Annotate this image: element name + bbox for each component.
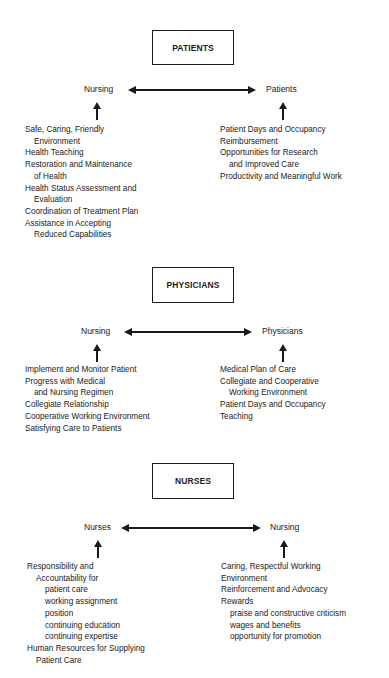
patients-left-list: Safe, Caring, Friendly Environment Healt… <box>25 124 138 241</box>
list-item: and Improved Care <box>220 159 342 171</box>
patients-title-box: PATIENTS <box>152 30 234 65</box>
physicians-right-list: Medical Plan of Care Collegiate and Coop… <box>220 364 326 423</box>
nurses-left-list: Responsibility and Accountability for pa… <box>27 561 145 666</box>
list-item: Caring, Respectful Working <box>221 561 346 573</box>
right-node-physicians: Physicians <box>262 326 303 336</box>
left-node-nurses: Nurses <box>84 522 111 532</box>
list-item: Progress with Medical <box>25 376 150 388</box>
list-item: Assistance in Accepting <box>25 218 138 230</box>
list-item: Responsibility and <box>27 561 145 573</box>
list-item: praise and constructive criticism <box>221 608 346 620</box>
list-item: Accountability for <box>27 573 145 585</box>
list-item: patient care <box>27 584 145 596</box>
list-item: Coordination of Treatment Plan <box>25 206 138 218</box>
list-item: Human Resources for Supplying <box>27 643 145 655</box>
list-item: Rewards <box>221 596 346 608</box>
list-item: Safe, Caring, Friendly <box>25 124 138 136</box>
right-node-nursing: Nursing <box>270 522 299 532</box>
list-item: Reinforcement and Advocacy <box>221 584 346 596</box>
section-title: PATIENTS <box>172 43 214 53</box>
right-node-patients: Patients <box>266 84 297 94</box>
double-arrow-icon <box>130 331 246 333</box>
double-arrow-icon <box>127 527 255 529</box>
list-item: Patient Care <box>27 655 145 667</box>
list-item: Health Teaching <box>25 147 138 159</box>
list-item: and Nursing Regimen <box>25 387 150 399</box>
list-item: continuing expertise <box>27 631 145 643</box>
list-item: of Health <box>25 171 138 183</box>
up-arrow-icon <box>282 350 284 362</box>
list-item: continuing education <box>27 620 145 632</box>
list-item: position <box>27 608 145 620</box>
list-item: working assignment <box>27 596 145 608</box>
list-item: Patient Days and Occupancy <box>220 124 342 136</box>
list-item: Cooperative Working Environment <box>25 411 150 423</box>
list-item: Collegiate and Cooperative <box>220 376 326 388</box>
list-item: Reduced Capabilities <box>25 229 138 241</box>
list-item: Reimbursement <box>220 136 342 148</box>
physicians-title-box: PHYSICIANS <box>152 267 234 303</box>
left-node-nursing: Nursing <box>81 326 110 336</box>
list-item: opportunity for promotion <box>221 631 346 643</box>
up-arrow-icon <box>283 546 285 558</box>
list-item: Opportunities for Research <box>220 147 342 159</box>
list-item: Implement and Monitor Patient <box>25 364 150 376</box>
section-title: NURSES <box>175 476 211 486</box>
list-item: Productivity and Meaningful Work <box>220 171 342 183</box>
list-item: Evaluation <box>25 194 138 206</box>
nurses-title-box: NURSES <box>152 463 234 499</box>
up-arrow-icon <box>96 108 98 120</box>
section-title: PHYSICIANS <box>167 280 220 290</box>
patients-right-list: Patient Days and Occupancy Reimbursement… <box>220 124 342 183</box>
list-item: Health Status Assessment and <box>25 183 138 195</box>
list-item: wages and benefits <box>221 620 346 632</box>
list-item: Restoration and Maintenance <box>25 159 138 171</box>
list-item: Environment <box>221 573 346 585</box>
up-arrow-icon <box>97 546 99 558</box>
up-arrow-icon <box>96 350 98 362</box>
up-arrow-icon <box>282 108 284 120</box>
nurses-right-list: Caring, Respectful Working Environment R… <box>221 561 346 643</box>
list-item: Satisfying Care to Patients <box>25 423 150 435</box>
list-item: Environment <box>25 136 138 148</box>
double-arrow-icon <box>134 89 250 91</box>
list-item: Patient Days and Occupancy <box>220 399 326 411</box>
list-item: Collegiate Relationship <box>25 399 150 411</box>
physicians-left-list: Implement and Monitor Patient Progress w… <box>25 364 150 434</box>
list-item: Working Environment <box>220 387 326 399</box>
left-node-nursing: Nursing <box>84 84 113 94</box>
list-item: Medical Plan of Care <box>220 364 326 376</box>
list-item: Teaching <box>220 411 326 423</box>
